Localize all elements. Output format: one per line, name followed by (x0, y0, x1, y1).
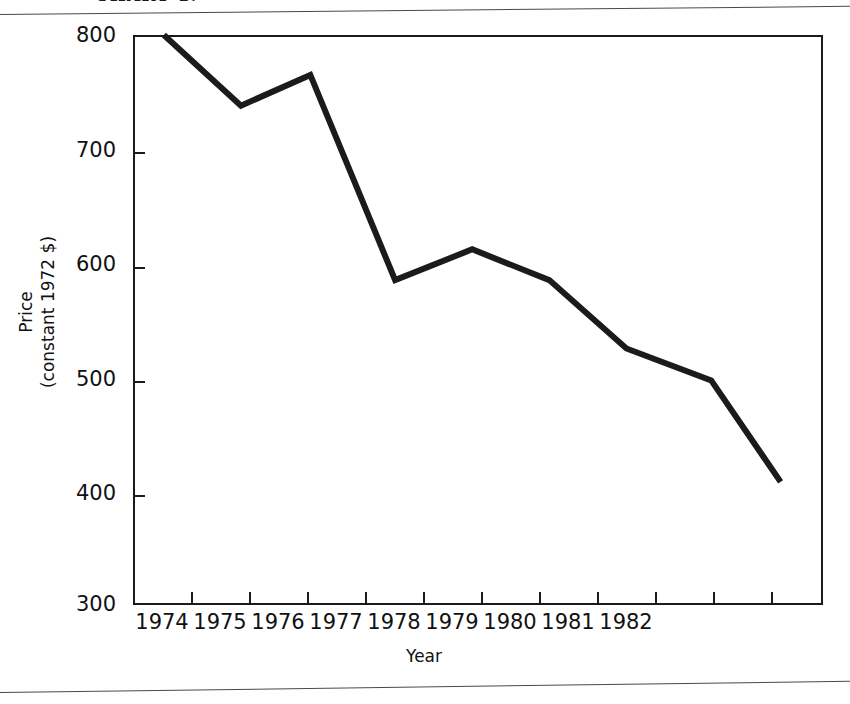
y-tick-label-400: 400 (76, 483, 116, 504)
line-chart: 800 700 600 500 400 300 1974 1975 1976 1… (0, 0, 848, 690)
y-tick-label-600: 600 (76, 254, 116, 275)
x-tick-label-1982: 1982 (599, 610, 652, 634)
x-tick-label-1981: 1981 (541, 610, 594, 634)
x-tick-label-1980: 1980 (483, 610, 536, 634)
y-tick-label-700: 700 (76, 140, 116, 161)
x-tick-label-1977: 1977 (309, 610, 362, 634)
x-tick-label-1978: 1978 (367, 610, 420, 634)
x-axis-title: Year (0, 646, 848, 666)
x-tick-label-1979: 1979 (425, 610, 478, 634)
y-axis-title-line-2: (constant 1972 $) (37, 212, 59, 412)
price-series-line (133, 35, 823, 605)
price-polyline (164, 35, 781, 482)
x-tick-label-1975: 1975 (193, 610, 246, 634)
y-axis-title-line-1: Price (15, 212, 37, 412)
y-tick-label-500: 500 (76, 369, 116, 390)
x-tick-label-1974: 1974 (135, 610, 188, 634)
x-tick-label-1976: 1976 (251, 610, 304, 634)
y-axis-title: Price (constant 1972 $) (15, 212, 59, 412)
x-axis-labels: 1974 1975 1976 1977 1978 1979 1980 1981 … (0, 610, 848, 640)
y-tick-label-800: 800 (76, 25, 116, 46)
